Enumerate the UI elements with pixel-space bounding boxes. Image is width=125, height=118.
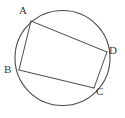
vertex-label-b: B	[4, 64, 11, 75]
geometry-canvas	[0, 0, 125, 118]
chord-bc	[19, 70, 94, 88]
geometry-figure: A B C D	[0, 0, 125, 118]
vertex-label-c: C	[96, 86, 103, 97]
chord-cd	[94, 52, 107, 88]
vertex-label-a: A	[19, 5, 27, 16]
vertex-label-d: D	[109, 45, 117, 56]
chord-ad	[31, 21, 107, 52]
